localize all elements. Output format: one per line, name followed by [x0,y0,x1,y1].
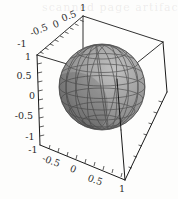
top-axis-label-pos-half: 0.5 [60,8,78,24]
left-axis-label-neg-one: -1 [25,131,34,142]
top-axis-labels: -1 -0.5 0 0.5 1 [17,2,86,49]
left-axis-labels: 1 0.5 0 -0.5 -1 [15,51,35,142]
bottom-axis-labels: -1 -0.5 0 0.5 1 [28,144,125,194]
left-axis-label-zero: 0 [29,90,35,101]
left-axis-label-pos-one: 1 [25,51,31,62]
top-axis-label-neg-half: -0.5 [28,21,49,38]
plot-canvas: -1 -0.5 0 0.5 1 1 0.5 0 -0.5 -1 -1 -0.5 … [0,0,178,199]
bottom-axis-label-pos-half: 0.5 [86,172,104,188]
sphere-plot-figure: scanned page artifact [0,0,178,199]
unit-sphere [40,39,145,140]
bottom-axis-label-pos-one: 1 [119,183,125,194]
bottom-axis-label-zero: 0 [68,163,77,175]
bottom-axis-label-neg-one: -1 [28,144,37,155]
left-axis-label-neg-half: -0.5 [15,110,33,121]
top-axis-label-pos-one: 1 [80,2,86,13]
top-axis-label-zero: 0 [51,18,61,30]
left-axis-label-pos-half: 0.5 [16,70,31,81]
top-axis-label-neg-one: -1 [17,38,26,49]
bottom-axis-label-neg-half: -0.5 [41,152,62,169]
